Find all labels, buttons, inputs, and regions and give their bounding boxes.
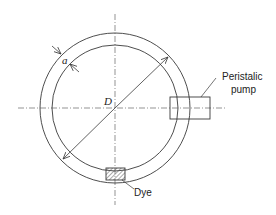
pump-label-line2: pump — [231, 84, 256, 95]
tube-loop-diagram: a D Peristalic pump Dye — [0, 0, 276, 215]
dye-block — [106, 168, 125, 180]
pump-leader-line — [201, 78, 216, 97]
pump-label-line1: Peristalic — [222, 71, 263, 82]
diameter-label: D — [103, 95, 112, 107]
diameter-arrow-lower — [63, 108, 115, 159]
dye-label: Dye — [134, 187, 152, 198]
thickness-arrow-inner — [70, 64, 79, 72]
thickness-label: a — [62, 54, 68, 66]
thickness-arrow-outer — [52, 46, 61, 54]
diameter-arrow — [115, 57, 168, 108]
